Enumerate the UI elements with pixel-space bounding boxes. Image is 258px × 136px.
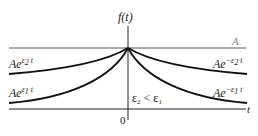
label-left-eps2: Aeε2 t xyxy=(8,56,34,71)
condition-label: ε2 < ε1 xyxy=(132,91,162,106)
label-left-eps1: Aeε1 t xyxy=(8,85,34,100)
level-label: A xyxy=(231,35,239,47)
y-axis-label: f(t) xyxy=(118,10,133,24)
label-right-eps2: Ae−ε2 t xyxy=(212,56,243,71)
x-axis-label: t xyxy=(247,103,251,115)
exponential-decay-diagram: f(t) A t 0 Aeε2 t Aeε1 t Ae−ε2 t Ae−ε1 t… xyxy=(0,0,258,136)
origin-label: 0 xyxy=(120,114,126,126)
label-right-eps1: Ae−ε1 t xyxy=(212,85,243,100)
